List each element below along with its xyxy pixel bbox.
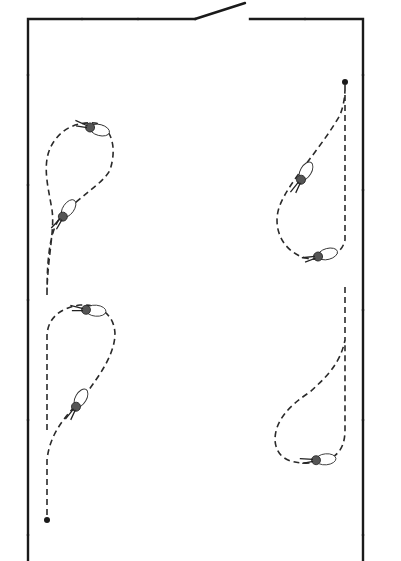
path-upper-right (277, 79, 348, 266)
door-leaf (195, 3, 245, 19)
start-marker (342, 79, 348, 85)
path-upper-left (46, 118, 113, 295)
room-diagram (0, 0, 401, 561)
path-lower-right (275, 287, 345, 467)
room-walls (28, 3, 363, 561)
start-marker (44, 517, 50, 523)
path-lower-left (44, 303, 115, 523)
